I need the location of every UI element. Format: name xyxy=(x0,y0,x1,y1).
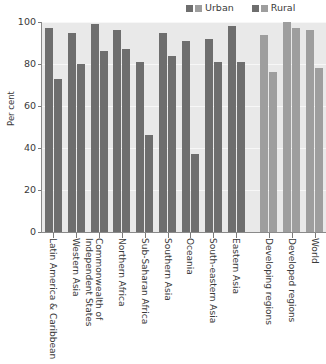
bar-rural[interactable] xyxy=(237,62,245,232)
y-axis-tick-label: 80 xyxy=(24,59,36,69)
x-axis-label-slot: South-eastern Asia xyxy=(202,238,225,364)
bar-urban[interactable] xyxy=(136,62,144,232)
x-axis-label-slot: Southern Asia xyxy=(156,238,179,364)
legend-swatch-dark-rural xyxy=(252,5,259,12)
x-axis-label: Developing regions xyxy=(264,238,274,325)
y-axis-tick-label: 20 xyxy=(24,185,36,195)
x-axis-label-slot: Developed regions xyxy=(280,238,303,364)
legend-label-urban: Urban xyxy=(205,3,234,13)
bar-group xyxy=(42,22,65,232)
bar-group xyxy=(88,22,111,232)
bar-rural[interactable] xyxy=(54,79,62,232)
x-axis-label-slot: Commonwealth ofIndependent States xyxy=(88,238,111,364)
bar-urban[interactable] xyxy=(113,30,121,232)
x-axis-label-slot: Eastern Asia xyxy=(225,238,248,364)
y-axis-tick: 60 xyxy=(24,101,42,111)
bar-urban[interactable] xyxy=(91,24,99,232)
bar-rural[interactable] xyxy=(77,64,85,232)
bar-urban[interactable] xyxy=(260,35,268,232)
bar-group xyxy=(280,22,303,232)
x-axis-label-slot: Latin America & Caribbean xyxy=(42,238,65,364)
x-axis-label: Sub-Saharan Africa xyxy=(140,238,150,324)
y-axis-tick-label: 60 xyxy=(24,101,36,111)
bar-urban[interactable] xyxy=(205,39,213,232)
legend-swatch-group-rural xyxy=(252,5,268,12)
y-axis-tick-label: 40 xyxy=(24,143,36,153)
legend-entry-urban[interactable]: Urban xyxy=(186,3,234,13)
legend-label-rural: Rural xyxy=(271,3,296,13)
bar-group xyxy=(179,22,202,232)
legend-swatch-group-urban xyxy=(186,5,202,12)
bar-rural[interactable] xyxy=(292,28,300,232)
bar-groups xyxy=(42,22,326,232)
bar-urban[interactable] xyxy=(159,33,167,233)
bar-urban[interactable] xyxy=(283,22,291,232)
bar-group xyxy=(110,22,133,232)
x-axis-label: Latin America & Caribbean xyxy=(48,238,58,359)
bar-urban[interactable] xyxy=(306,30,314,232)
bar-rural[interactable] xyxy=(191,154,199,232)
x-axis-label-slot: Oceania xyxy=(179,238,202,364)
x-axis-label: World xyxy=(310,238,320,264)
bar-group xyxy=(225,22,248,232)
bar-urban[interactable] xyxy=(228,26,236,232)
y-axis-tick: 80 xyxy=(24,59,42,69)
x-axis-label-slot: Sub-Saharan Africa xyxy=(133,238,156,364)
y-axis-tick: 20 xyxy=(24,185,42,195)
bar-rural[interactable] xyxy=(122,49,130,232)
bar-chart: Urban Rural Per cent 020406080100 Latin … xyxy=(0,0,326,364)
y-axis-tick: 40 xyxy=(24,143,42,153)
x-axis-label: Eastern Asia xyxy=(231,238,241,294)
bar-rural[interactable] xyxy=(214,62,222,232)
y-axis-tick-label: 0 xyxy=(30,227,36,237)
bar-urban[interactable] xyxy=(182,41,190,232)
x-axis-label-slot: Developing regions xyxy=(257,238,280,364)
x-axis-label: Commonwealth of xyxy=(94,238,104,320)
x-axis-label: Northern Africa xyxy=(117,238,127,306)
bar-rural[interactable] xyxy=(269,72,277,232)
x-axis-label: Western Asia xyxy=(71,238,81,297)
bar-group xyxy=(202,22,225,232)
bar-rural[interactable] xyxy=(168,56,176,232)
bar-group xyxy=(133,22,156,232)
x-axis-label: Independent States xyxy=(84,238,94,326)
bar-group xyxy=(65,22,88,232)
x-axis-labels: Latin America & CaribbeanWestern AsiaCom… xyxy=(42,238,326,364)
bar-urban[interactable] xyxy=(68,33,76,233)
x-axis-label-slot: World xyxy=(303,238,326,364)
bar-rural[interactable] xyxy=(145,135,153,232)
y-axis-tick: 100 xyxy=(18,17,42,27)
x-axis-label: Southern Asia xyxy=(163,238,173,301)
x-axis-label: Oceania xyxy=(185,238,195,275)
bar-rural[interactable] xyxy=(315,68,323,232)
legend-entry-rural[interactable]: Rural xyxy=(252,3,296,13)
legend-swatch-dark-urban xyxy=(186,5,193,12)
x-axis-label-slot: Northern Africa xyxy=(110,238,133,364)
y-axis: 020406080100 xyxy=(0,16,42,238)
legend-swatch-light-urban xyxy=(195,5,202,12)
x-axis-label: South-eastern Asia xyxy=(208,238,218,323)
plot-area xyxy=(42,22,326,232)
bar-group xyxy=(156,22,179,232)
chart-legend: Urban Rural xyxy=(186,1,326,15)
bar-urban[interactable] xyxy=(45,28,53,232)
bar-group xyxy=(257,22,280,232)
y-axis-tick-label: 100 xyxy=(18,17,36,27)
bar-group xyxy=(303,22,326,232)
legend-swatch-light-rural xyxy=(261,5,268,12)
x-axis-label: Developed regions xyxy=(287,238,297,322)
bar-rural[interactable] xyxy=(100,51,108,232)
